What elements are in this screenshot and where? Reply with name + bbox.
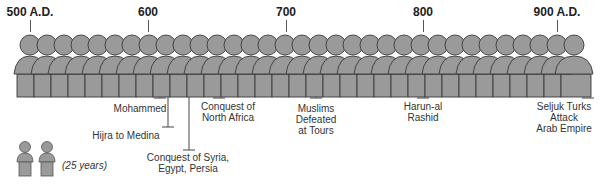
- event-label-line: Attack: [536, 112, 592, 123]
- event-label-line: Defeated: [296, 114, 337, 125]
- event-label: Conquest of Syria,Egypt, Persia: [147, 152, 229, 174]
- figure-body: [238, 74, 255, 97]
- event-label-line: at Tours: [296, 125, 337, 136]
- figure-body: [272, 74, 289, 97]
- event-label-line: North Africa: [201, 112, 255, 123]
- event-label: Mohammed: [114, 103, 167, 114]
- event-label-line: Egypt, Persia: [147, 163, 229, 174]
- figure-body: [493, 74, 510, 97]
- figure-body: [425, 74, 442, 97]
- event-label: Hijra to Medina: [92, 130, 159, 141]
- figure-body: [306, 74, 323, 97]
- figure-body: [510, 74, 527, 97]
- event-label-line: Muslims: [296, 103, 337, 114]
- year-tick: [557, 20, 558, 32]
- figure-body: [374, 74, 391, 97]
- figure-body: [85, 74, 102, 97]
- event-label-line: Conquest of Syria,: [147, 152, 229, 163]
- figure-body: [340, 74, 357, 97]
- event-label-line: Rashid: [404, 112, 442, 123]
- event-label: Conquest ofNorth Africa: [201, 101, 255, 123]
- legend-figures-icon: [14, 140, 60, 178]
- figure-body: [17, 74, 34, 97]
- figure-body: [153, 74, 170, 97]
- event-label-line: Harun-al: [404, 101, 442, 112]
- event-label: MuslimsDefeatedat Tours: [296, 103, 337, 136]
- year-label: 500 A.D.: [7, 5, 54, 19]
- year-label: 700: [276, 5, 296, 19]
- event-label: Harun-alRashid: [404, 101, 442, 123]
- figure-body: [527, 74, 544, 97]
- figure-body: [221, 74, 238, 97]
- figure-body: [459, 74, 476, 97]
- figure-body: [544, 74, 561, 97]
- figure-body: [170, 74, 187, 97]
- year-label: 800: [413, 5, 433, 19]
- timeline-figures: [0, 0, 606, 184]
- event-label: Seljuk TurksAttackArab Empire: [536, 101, 592, 134]
- figure-body: [561, 74, 591, 97]
- figure-body: [102, 74, 119, 97]
- figure-body: [68, 74, 85, 97]
- figure-body: [289, 74, 306, 97]
- figure-body: [323, 74, 340, 97]
- figure-body: [476, 74, 493, 97]
- figure-body: [187, 74, 204, 97]
- figure-body: [34, 74, 51, 97]
- year-tick: [286, 20, 287, 32]
- year-label: 900 A.D.: [534, 5, 581, 19]
- figure-body: [119, 74, 136, 97]
- figure-body: [442, 74, 459, 97]
- year-tick: [148, 20, 149, 32]
- event-label-line: Arab Empire: [536, 123, 592, 134]
- figure-body: [391, 74, 408, 97]
- year-tick: [30, 20, 31, 32]
- figure-head: [564, 35, 584, 55]
- figure-body: [255, 74, 272, 97]
- figure-body: [136, 74, 153, 97]
- year-label: 600: [138, 5, 158, 19]
- figure-body: [204, 74, 221, 97]
- figure-body: [357, 74, 374, 97]
- event-label-line: Seljuk Turks: [536, 101, 592, 112]
- figure-body: [51, 74, 68, 97]
- figure-body: [408, 74, 425, 97]
- year-tick: [423, 20, 424, 32]
- event-label-line: Conquest of: [201, 101, 255, 112]
- legend-label: (25 years): [62, 160, 107, 171]
